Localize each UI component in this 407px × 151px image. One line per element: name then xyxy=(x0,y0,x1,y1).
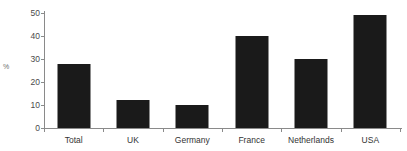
x-axis-category-label: USA xyxy=(332,134,407,146)
x-tick-mark xyxy=(163,129,164,132)
y-tick-mark xyxy=(41,59,44,60)
bar-slot xyxy=(341,13,400,128)
bar xyxy=(354,15,387,128)
x-tick-mark xyxy=(44,129,45,132)
x-axis-line xyxy=(44,128,402,129)
bar xyxy=(57,64,90,128)
y-tick-label: 50 xyxy=(6,9,40,18)
x-axis-labels: TotalUKGermanyFranceNetherlandsUSA xyxy=(44,134,400,148)
bar xyxy=(116,100,149,128)
y-tick-mark xyxy=(41,13,44,14)
bar xyxy=(235,36,268,128)
x-tick-mark xyxy=(400,129,401,132)
bar-slot xyxy=(44,13,103,128)
bar xyxy=(176,105,209,128)
plot-area xyxy=(44,13,400,128)
x-tick-mark xyxy=(281,129,282,132)
bar-slot xyxy=(222,13,281,128)
y-tick-mark xyxy=(41,82,44,83)
y-axis-ticks: 01020304050 xyxy=(0,0,40,151)
bar-slot xyxy=(103,13,162,128)
x-tick-mark xyxy=(103,129,104,132)
y-tick-label: 40 xyxy=(6,32,40,41)
bar-slot xyxy=(163,13,222,128)
y-tick-mark xyxy=(41,105,44,106)
bar xyxy=(294,59,327,128)
y-tick-label: 20 xyxy=(6,78,40,87)
y-tick-label: 30 xyxy=(6,55,40,64)
x-tick-mark xyxy=(222,129,223,132)
bar-chart: % 01020304050 TotalUKGermanyFranceNether… xyxy=(0,0,407,151)
bar-slot xyxy=(281,13,340,128)
y-tick-label: 10 xyxy=(6,101,40,110)
y-tick-mark xyxy=(41,36,44,37)
y-tick-label: 0 xyxy=(6,124,40,133)
x-tick-mark xyxy=(341,129,342,132)
